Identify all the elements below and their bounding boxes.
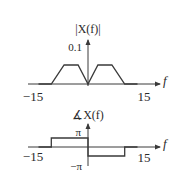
phase-xtick-max: 15 [138, 150, 151, 165]
phase-xtick-min: −15 [23, 149, 43, 164]
mag-title: |X(f)| [75, 22, 100, 36]
phase-ytick-pos: π [75, 126, 81, 138]
phase-x-axis-label: f [163, 136, 169, 151]
mag-xtick-min: −15 [23, 89, 43, 104]
spectrum-diagram: |X(f)| 0.1 −15 15 f ∡X(f) π −π −15 15 f [0, 0, 176, 177]
mag-xtick-max: 15 [138, 89, 151, 104]
mag-ytick-label: 0.1 [68, 41, 82, 53]
phase-ytick-neg: −π [70, 160, 82, 172]
phase-title: ∡X(f) [72, 108, 104, 122]
phase-plot: ∡X(f) π −π −15 15 f [23, 108, 169, 172]
mag-x-axis-label: f [163, 73, 169, 88]
magnitude-plot: |X(f)| 0.1 −15 15 f [23, 22, 169, 104]
